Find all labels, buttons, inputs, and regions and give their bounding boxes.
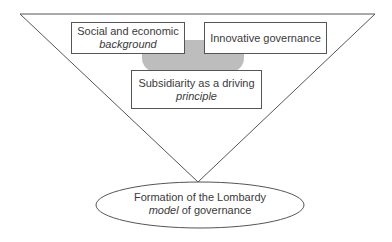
box-label: Social and economic <box>77 25 179 38</box>
box-label: Innovative governance <box>210 32 321 45</box>
box-subsidiarity: Subsidiarity as a driving principle <box>131 70 262 109</box>
outcome-line1: Formation of the Lombardy <box>100 191 300 204</box>
box-label-italic: principle <box>176 90 217 103</box>
box-label: Subsidiarity as a driving <box>138 77 254 90</box>
outcome-rest: of governance <box>179 204 252 216</box>
box-social-economic-background: Social and economic background <box>71 22 185 54</box>
outcome-line2: model of governance <box>100 204 300 217</box>
outcome-label: Formation of the Lombardy model of gover… <box>100 191 300 217</box>
box-label-italic: background <box>99 38 157 51</box>
outcome-italic: model <box>149 204 179 216</box>
box-innovative-governance: Innovative governance <box>204 22 327 54</box>
